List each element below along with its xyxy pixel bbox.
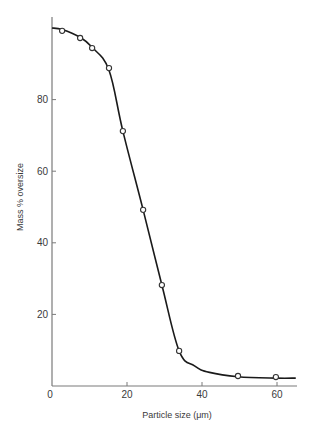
data-markers <box>60 28 279 379</box>
axes <box>52 17 297 386</box>
y-axis-label: Mass % oversize <box>15 163 25 231</box>
y-tick-label: 80 <box>37 94 49 105</box>
x-tick-label: 20 <box>121 389 133 400</box>
data-point <box>159 282 164 287</box>
y-tick-label: 20 <box>37 309 49 320</box>
data-point <box>90 45 95 50</box>
x-tick-label: 40 <box>196 389 208 400</box>
fitted-curve <box>52 28 296 378</box>
y-ticks: 20406080 <box>37 94 56 320</box>
data-point <box>78 35 83 40</box>
data-point <box>60 28 65 33</box>
data-point <box>177 348 182 353</box>
x-axis-label: Particle size (μm) <box>142 410 212 420</box>
data-point <box>120 129 125 134</box>
x-ticks: 0204060 <box>47 382 283 400</box>
particle-size-chart: 20406080 0204060 Mass % oversize Particl… <box>0 0 311 437</box>
x-tick-label: 0 <box>47 389 53 400</box>
data-point <box>141 207 146 212</box>
data-point <box>106 65 111 70</box>
y-tick-label: 60 <box>37 166 49 177</box>
data-point <box>235 373 240 378</box>
y-tick-label: 40 <box>37 237 49 248</box>
data-point <box>273 374 278 379</box>
x-tick-label: 60 <box>271 389 283 400</box>
